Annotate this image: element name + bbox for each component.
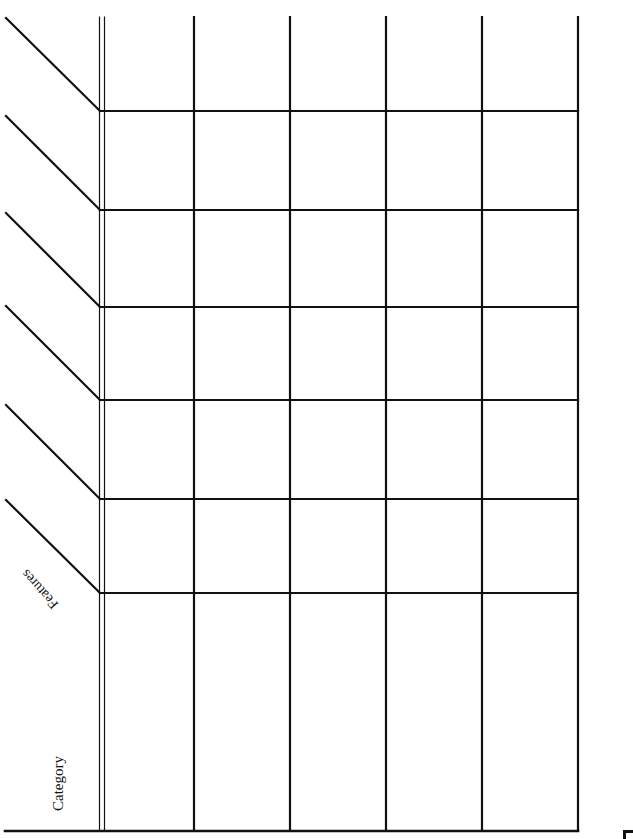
diagonal-header-line — [6, 405, 100, 499]
diagonal-header-line — [6, 18, 100, 111]
corner-crop-mark — [623, 830, 633, 839]
diagonal-header-line — [6, 116, 100, 210]
table-template-page: Features Category — [0, 0, 633, 839]
category-label: Category — [50, 756, 67, 811]
table-grid — [0, 0, 633, 839]
diagonal-header-line — [6, 306, 100, 400]
diagonal-header-line — [6, 213, 100, 307]
